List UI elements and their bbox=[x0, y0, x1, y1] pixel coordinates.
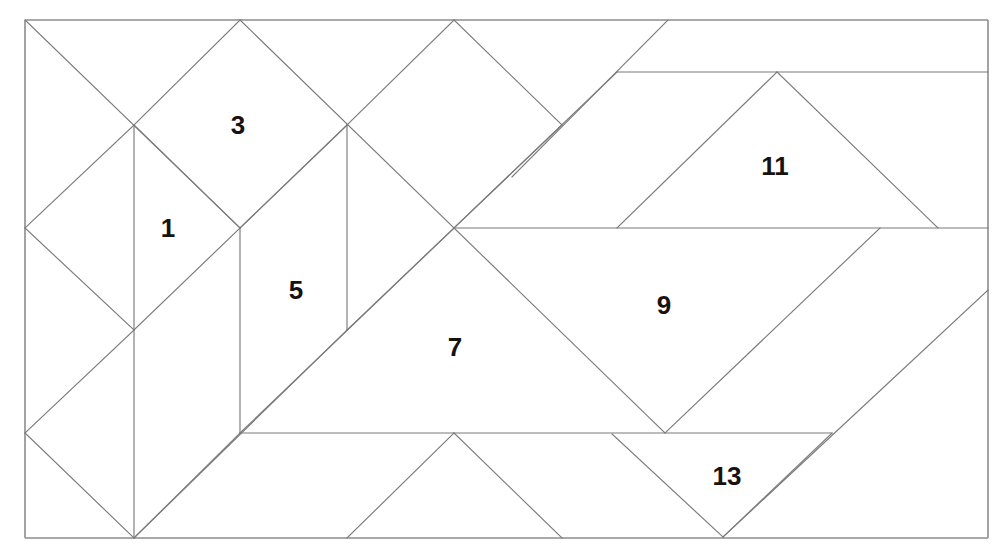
labels-group: 135791113 bbox=[161, 110, 789, 491]
segment-diag-a3 bbox=[25, 125, 134, 228]
segment-diag-a8 bbox=[25, 433, 134, 538]
segment-diag-i1 bbox=[612, 434, 723, 537]
tessellation-figure: 135791113 bbox=[0, 0, 1008, 558]
segment-diag-f2 bbox=[454, 72, 617, 228]
region-label-3: 3 bbox=[231, 110, 245, 140]
segment-diag-j1 bbox=[454, 433, 562, 538]
region-label-1: 1 bbox=[161, 213, 175, 243]
segment-diag-d2 bbox=[454, 228, 665, 433]
segment-diag-c4 bbox=[454, 20, 562, 125]
segment-diag-a7 bbox=[25, 330, 134, 433]
segment-diag-j2 bbox=[347, 433, 454, 538]
diagram-canvas: 135791113 bbox=[0, 0, 1008, 558]
segment-diag-c6 bbox=[240, 125, 347, 228]
segments-group bbox=[25, 20, 988, 538]
segment-diag-c2 bbox=[347, 20, 454, 125]
segment-diag-d3 bbox=[347, 228, 454, 330]
segment-diag-g1 bbox=[617, 72, 777, 228]
segment-diag-a2 bbox=[134, 20, 240, 125]
region-label-11: 11 bbox=[761, 151, 789, 181]
segment-diag-h2 bbox=[723, 290, 988, 537]
region-label-9: 9 bbox=[657, 290, 671, 320]
segment-diag-a5 bbox=[25, 228, 134, 330]
segment-diag-a4 bbox=[134, 125, 240, 228]
region-label-13: 13 bbox=[713, 461, 742, 491]
segment-diag-g2 bbox=[777, 72, 938, 228]
segment-diag-a6 bbox=[134, 228, 240, 330]
region-label-5: 5 bbox=[289, 275, 303, 305]
region-label-7: 7 bbox=[448, 332, 462, 362]
segment-diag-h1 bbox=[665, 228, 880, 433]
